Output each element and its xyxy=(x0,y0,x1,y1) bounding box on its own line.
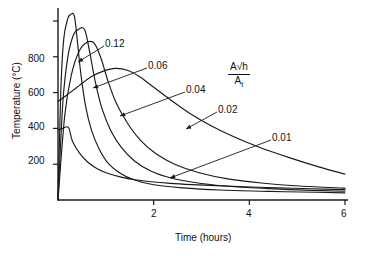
leader-line-0-04 xyxy=(120,92,185,116)
curve-0-02 xyxy=(58,68,345,174)
leader-line-0-06 xyxy=(93,68,147,88)
curve-0-06 xyxy=(58,28,345,200)
curve-0-01 xyxy=(58,127,345,190)
chart-figure: Temperature (°C) Time (hours) 800 600 40… xyxy=(0,0,372,256)
leader-line-0-01 xyxy=(170,140,271,178)
leader-arrow-0-01 xyxy=(170,174,176,178)
plot-area xyxy=(0,0,372,256)
